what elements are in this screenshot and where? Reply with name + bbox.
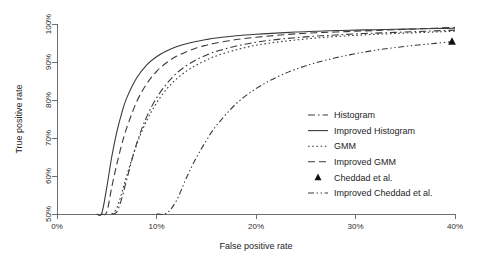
- y-axis-ticks: [52, 24, 57, 214]
- x-tick-label: 40%: [447, 222, 463, 231]
- roc-chart-figure: 0%10%20%30%40% 50%60%70%80%90%100% False…: [0, 0, 484, 267]
- y-tick-label: 80%: [44, 92, 53, 108]
- x-tick-label: 10%: [148, 222, 164, 231]
- legend-label-improved-cheddad-et-al: Improved Cheddad et al.: [334, 188, 433, 198]
- y-tick-label: 100%: [44, 14, 53, 34]
- data-point-markers: [448, 37, 456, 44]
- x-tick-label: 30%: [347, 222, 363, 231]
- chart-legend: HistogramImproved HistogramGMMImproved G…: [308, 110, 433, 198]
- legend-swatch-cheddad-et-al: [315, 174, 322, 181]
- series-line-gmm: [112, 31, 455, 214]
- data-series-lines: [97, 27, 455, 215]
- legend-label-improved-histogram: Improved Histogram: [334, 126, 415, 136]
- legend-label-gmm: GMM: [334, 141, 356, 151]
- y-axis-tick-labels: 50%60%70%80%90%100%: [44, 14, 53, 222]
- y-axis-title: True positive rate: [14, 84, 24, 153]
- y-tick-label: 50%: [44, 206, 53, 222]
- chart-canvas: 0%10%20%30%40% 50%60%70%80%90%100% False…: [0, 0, 484, 267]
- x-tick-label: 0%: [51, 222, 63, 231]
- x-axis-ticks: [57, 214, 455, 219]
- legend-label-cheddad-et-al: Cheddad et al.: [334, 173, 393, 183]
- x-axis-tick-labels: 0%10%20%30%40%: [51, 222, 463, 231]
- x-axis-title: False positive rate: [219, 241, 292, 251]
- series-line-histogram: [112, 30, 455, 214]
- y-tick-label: 70%: [44, 130, 53, 146]
- data-point-cheddad-et-al: [448, 37, 456, 44]
- x-tick-label: 20%: [248, 222, 264, 231]
- legend-label-histogram: Histogram: [334, 110, 375, 120]
- y-tick-label: 90%: [44, 54, 53, 70]
- legend-label-improved-gmm: Improved GMM: [334, 157, 396, 167]
- series-line-improved-gmm: [102, 27, 455, 214]
- y-tick-label: 60%: [44, 168, 53, 184]
